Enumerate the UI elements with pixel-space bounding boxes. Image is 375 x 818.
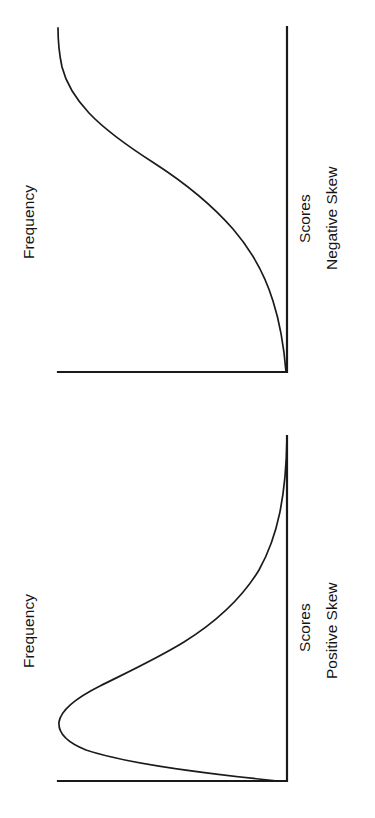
positive-skew-plot	[58, 434, 290, 784]
chart-panel-positive-skew: Frequency Scores Positive Skew	[0, 409, 375, 818]
axis-lines	[58, 436, 287, 781]
figure-sheet: Frequency Scores Negative Skew Frequency	[0, 0, 375, 818]
negative-skew-plot	[58, 25, 290, 375]
plot-area-negative-skew	[58, 25, 290, 375]
x-axis-label-scores: Scores	[296, 194, 314, 243]
plot-area-positive-skew	[58, 434, 290, 784]
panel-caption-positive-skew: Positive Skew	[323, 583, 341, 679]
y-axis-label-frequency: Frequency	[20, 594, 38, 668]
density-curve-positive-skew	[59, 437, 287, 781]
density-curve-negative-skew	[58, 28, 286, 372]
panel-caption-negative-skew: Negative Skew	[323, 167, 341, 270]
axis-lines	[58, 27, 287, 372]
y-axis-label-frequency: Frequency	[20, 185, 38, 259]
scanned-page: Frequency Scores Negative Skew Frequency	[0, 0, 375, 818]
x-axis-label-scores: Scores	[296, 603, 314, 652]
chart-panel-negative-skew: Frequency Scores Negative Skew	[0, 0, 375, 409]
